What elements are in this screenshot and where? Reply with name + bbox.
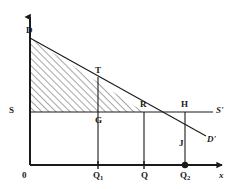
label-supply-start: S [9, 106, 14, 115]
label-quantity-2: Q2 [180, 171, 190, 180]
label-supply-end: S' [216, 106, 224, 115]
label-demand-start: D [26, 26, 33, 35]
economics-diagram: D T S G R H S' J D' 0 Q1 Q Q2 x [0, 0, 241, 189]
label-origin: 0 [22, 171, 27, 180]
q1-subscript: 1 [100, 174, 103, 181]
label-point-h: H [181, 100, 188, 109]
label-x-axis: x [219, 171, 224, 180]
q2-point-marker [182, 162, 188, 168]
label-quantity-1: Q1 [93, 171, 103, 180]
label-demand-end: D' [207, 135, 216, 144]
label-point-t: T [95, 66, 101, 75]
diagram-canvas [0, 0, 241, 189]
label-point-j: J [179, 139, 184, 148]
consumer-surplus-region [30, 38, 144, 112]
q2-subscript: 2 [187, 174, 190, 181]
q1-base: Q [93, 170, 100, 180]
label-point-g: G [95, 116, 102, 125]
q2-base: Q [180, 170, 187, 180]
label-point-r: R [140, 100, 147, 109]
label-quantity-mid: Q [141, 171, 148, 180]
